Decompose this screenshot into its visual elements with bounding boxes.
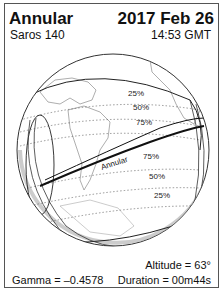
contour-label-lower-50: 50% — [149, 172, 165, 181]
altitude-value: Altitude = 63° — [145, 259, 211, 271]
contour-label-upper-25: 25% — [128, 89, 144, 98]
contour-label-lower-75: 75% — [143, 152, 159, 161]
eclipse-date: 2017 Feb 26 — [118, 9, 214, 29]
contour-label-upper-75: 75% — [136, 118, 152, 127]
duration-value: Duration = 00m44s — [118, 274, 211, 286]
gamma-value: Gamma = –0.4578 — [12, 274, 103, 286]
eclipse-time: 14:53 GMT — [151, 28, 211, 42]
contour-label-upper-50: 50% — [133, 103, 149, 112]
contour-label-lower-25: 25% — [154, 191, 170, 200]
eclipse-type-title: Annular — [9, 9, 73, 29]
globe-map: 25% 50% 75% 75% 50% 25% Annular — [0, 0, 224, 293]
saros-label: Saros 140 — [10, 28, 65, 42]
